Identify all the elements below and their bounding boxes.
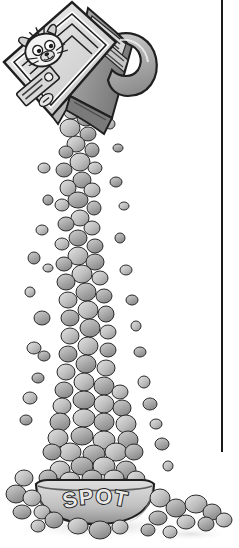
illustration-canvas: Dog food box pouring kibble into a bowl …: [0, 0, 239, 548]
vertical-rule: [221, 0, 223, 452]
pouring-dogfood-illustration: SPOT: [0, 0, 239, 548]
